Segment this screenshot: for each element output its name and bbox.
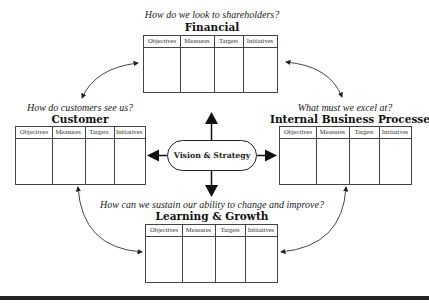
col-targets: Targets bbox=[84, 127, 113, 138]
customer-table: Objectives Measures Targets Initiatives bbox=[15, 126, 146, 185]
financial-title: Financial bbox=[110, 21, 314, 33]
customer-title: Customer bbox=[0, 113, 160, 125]
internal-table: Objectives Measures Targets Initiatives bbox=[279, 126, 412, 185]
internal-question: What must we excel at? bbox=[275, 102, 415, 113]
learning-question: How can we sustain our ability to change… bbox=[80, 199, 344, 210]
col-measures: Measures bbox=[180, 36, 214, 47]
learning-table: Objectives Measures Targets Initiatives bbox=[145, 224, 278, 283]
col-targets: Targets bbox=[214, 36, 243, 47]
financial-table: Objectives Measures Targets Initiatives bbox=[143, 35, 278, 93]
vision-strategy-label: Vision & Strategy bbox=[174, 151, 251, 160]
col-measures: Measures bbox=[316, 127, 349, 138]
col-targets: Targets bbox=[349, 127, 379, 138]
learning-title: Learning & Growth bbox=[110, 210, 314, 222]
col-targets: Targets bbox=[215, 225, 245, 236]
col-initiatives: Initiatives bbox=[245, 225, 277, 236]
col-measures: Measures bbox=[52, 127, 85, 138]
customer-question: How do customers see us? bbox=[0, 102, 160, 113]
col-objectives: Objectives bbox=[280, 127, 316, 138]
internal-title: Internal Business Processes bbox=[270, 113, 420, 125]
bottom-divider bbox=[0, 296, 429, 300]
col-objectives: Objectives bbox=[146, 225, 182, 236]
arrow-customer-financial bbox=[82, 63, 138, 98]
arrow-financial-internal bbox=[286, 62, 342, 97]
financial-question: How do we look to shareholders? bbox=[110, 9, 314, 20]
col-objectives: Objectives bbox=[144, 36, 180, 47]
col-measures: Measures bbox=[182, 225, 215, 236]
vision-strategy-node: Vision & Strategy bbox=[167, 140, 257, 171]
col-initiatives: Initiatives bbox=[379, 127, 411, 138]
col-objectives: Objectives bbox=[16, 127, 52, 138]
col-initiatives: Initiatives bbox=[243, 36, 277, 47]
col-initiatives: Initiatives bbox=[113, 127, 145, 138]
